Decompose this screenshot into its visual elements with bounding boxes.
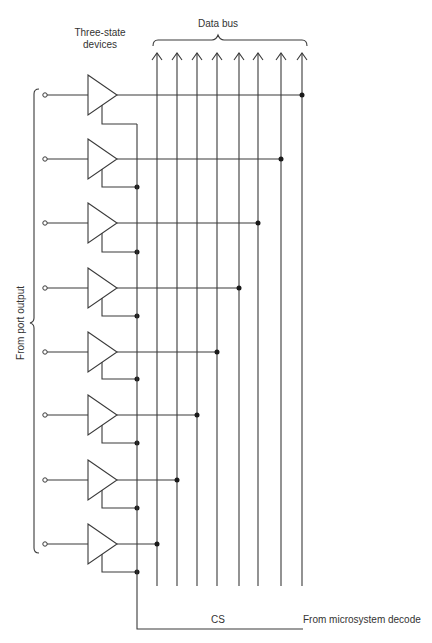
buffer-group — [43, 75, 305, 575]
buffer-1 — [43, 75, 305, 124]
three-state-bus-diagram: Three-state devices Data bus From port o… — [0, 0, 432, 643]
input-terminal-icon — [43, 350, 47, 354]
input-terminal-icon — [43, 542, 47, 546]
enable-wire — [102, 233, 137, 252]
port-output-brace — [30, 89, 39, 553]
buffer-8 — [43, 524, 160, 575]
bus-junction-dot — [155, 542, 160, 547]
enable-wire — [102, 105, 137, 124]
buffer-7 — [43, 460, 180, 511]
three-state-label-line1: Three-state — [74, 27, 126, 38]
enable-wire — [102, 362, 137, 379]
buffer-3 — [43, 203, 261, 255]
bus-junction-dot — [195, 413, 200, 418]
enable-wire — [102, 298, 137, 316]
input-terminal-icon — [43, 157, 47, 161]
enable-wire — [102, 554, 137, 572]
enable-wire — [102, 425, 137, 443]
data-bus-brace — [153, 35, 307, 46]
bus-junction-dot — [215, 350, 220, 355]
bus-junction-dot — [237, 286, 242, 291]
chip-select-line — [137, 124, 303, 629]
enable-wire — [102, 169, 137, 187]
bus-junction-dot — [175, 478, 180, 483]
buffer-2 — [43, 139, 284, 190]
enable-wire — [102, 490, 137, 508]
bus-junction-dot — [256, 221, 261, 226]
decode-label: From microsystem decode — [303, 614, 421, 625]
buffer-4 — [43, 268, 242, 319]
three-state-label-line2: devices — [83, 39, 117, 50]
port-output-label: From port output — [15, 286, 26, 360]
input-terminal-icon — [43, 221, 47, 225]
data-bus-lines — [152, 53, 307, 586]
input-terminal-icon — [43, 413, 47, 417]
input-terminal-icon — [43, 286, 47, 290]
bus-junction-dot — [279, 157, 284, 162]
buffer-5 — [43, 332, 220, 382]
buffer-6 — [43, 395, 200, 446]
cs-label: CS — [211, 614, 225, 625]
input-terminal-icon — [43, 93, 47, 97]
input-terminal-icon — [43, 478, 47, 482]
data-bus-label: Data bus — [198, 18, 238, 29]
bus-junction-dot — [300, 93, 305, 98]
